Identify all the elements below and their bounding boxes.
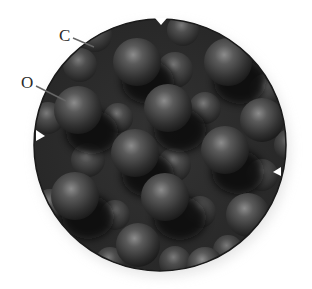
atom [141, 173, 189, 221]
crystal-lattice-figure: C O [0, 0, 312, 289]
atom [116, 223, 160, 267]
atom [113, 38, 161, 86]
lattice-diagram-svg [0, 0, 312, 289]
label-carbon: C [59, 27, 70, 44]
label-oxygen: O [21, 74, 33, 91]
atom [111, 129, 159, 177]
atom [144, 84, 192, 132]
atom [204, 38, 252, 86]
atom [240, 98, 284, 142]
atom [51, 172, 99, 220]
atom-oxygen-labeled [54, 86, 102, 134]
atom [226, 193, 270, 237]
atom [201, 126, 249, 174]
